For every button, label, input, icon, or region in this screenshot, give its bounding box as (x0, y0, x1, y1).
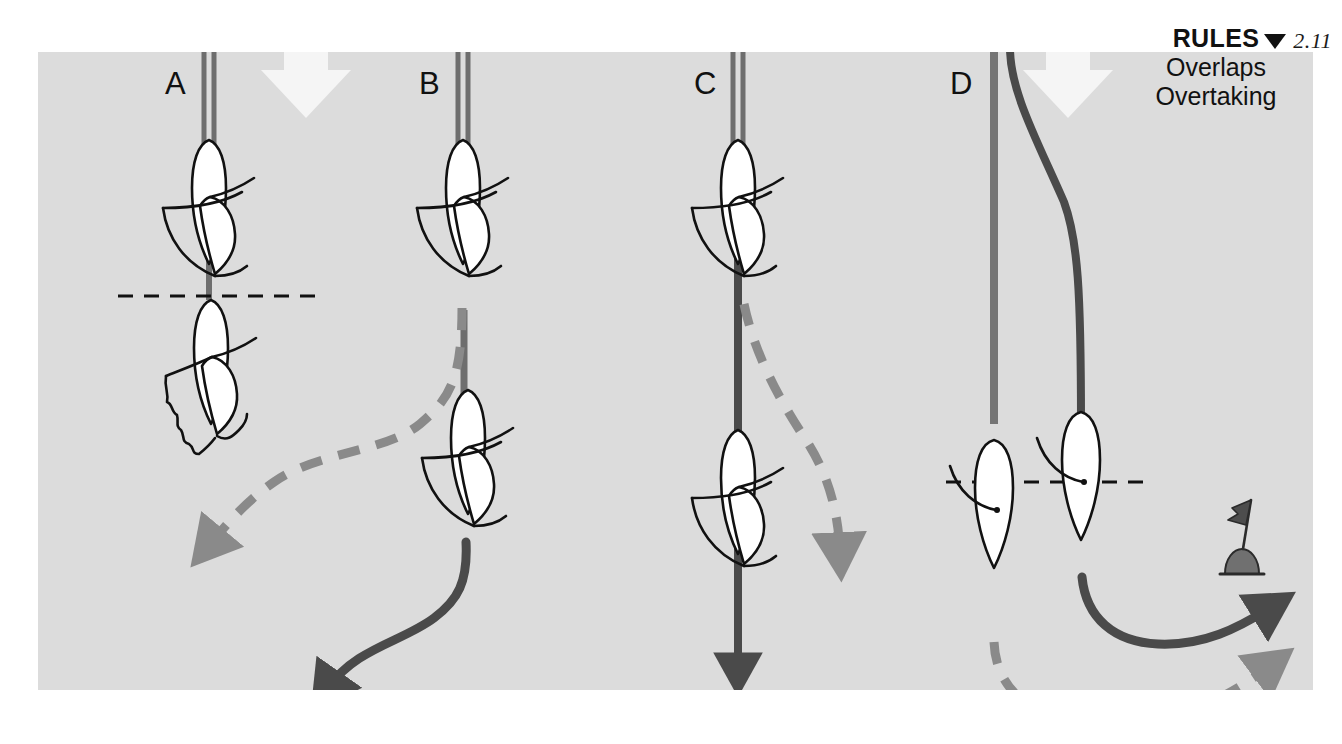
illustration-plate: A B C D (38, 52, 1313, 690)
page-number: 2.11 (1293, 30, 1332, 52)
panel-b-boat-lower (422, 390, 513, 526)
panel-a-boat-leeward (166, 300, 256, 454)
page-corner-marker: 2.11 (1264, 30, 1332, 52)
panel-d-boat-inside (1037, 412, 1100, 540)
panel-d-boat-outside (950, 440, 1013, 568)
panel-b-group (210, 52, 513, 688)
panel-a-boat-windward (163, 140, 254, 276)
panel-c-boat-lower (692, 430, 783, 566)
down-triangle-icon (1264, 34, 1286, 49)
racing-mark-buoy (1220, 500, 1264, 574)
wind-direction-arrow-a (261, 52, 351, 118)
page-root: 2.11 (0, 0, 1342, 744)
diagram-canvas (38, 52, 1313, 690)
panel-d-track-dashed-exit (994, 642, 1270, 690)
panel-a-track-incoming (204, 52, 214, 144)
panel-d-track-solid-exit (1082, 577, 1270, 644)
panel-c-group (692, 52, 840, 670)
panel-d-group (946, 52, 1270, 690)
panel-c-boat-upper (692, 140, 783, 276)
panel-b-track-incoming (458, 52, 468, 144)
panel-a-group (118, 52, 351, 454)
panel-b-boat-upper (417, 140, 508, 276)
panel-c-track-incoming (733, 52, 743, 144)
panel-b-track-solid (328, 542, 466, 688)
wind-direction-arrow-d (1023, 52, 1113, 118)
